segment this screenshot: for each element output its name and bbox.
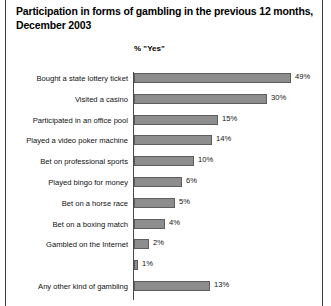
bar-value-label: 10%	[198, 155, 213, 164]
chart-title: Participation in forms of gambling in th…	[16, 5, 316, 32]
bar-row: Any other kind of gambling13%	[0, 278, 331, 299]
bar-category-label: Participated in an office pool	[8, 116, 128, 125]
bar	[134, 177, 182, 187]
bar	[134, 135, 212, 145]
bar	[134, 115, 218, 125]
bar-category-label: Played a video poker machine	[8, 136, 128, 145]
bar-value-label: 30%	[271, 93, 286, 102]
bar	[134, 73, 291, 83]
bar-value-label: 14%	[216, 134, 231, 143]
bar-row: Played a video poker machine14%	[0, 132, 331, 153]
bar	[134, 260, 138, 270]
bar-category-label: Visited a casino	[8, 95, 128, 104]
bar-value-label: 13%	[214, 280, 229, 289]
bar-value-label: 4%	[169, 218, 180, 227]
bar-value-label: 1%	[142, 259, 153, 268]
bar	[134, 281, 210, 291]
bar	[134, 198, 175, 208]
bar-row: Bet on a boxing match4%	[0, 216, 331, 237]
plot-area: Bought a state lottery ticket49%Visited …	[0, 70, 331, 302]
bar-row: Gambled on the Internet2%	[0, 236, 331, 257]
bar-row: Visited a casino30%	[0, 91, 331, 112]
bar-category-label: Played bingo for money	[8, 178, 128, 187]
bar-row: Bet on a horse race5%	[0, 195, 331, 216]
bar-category-label: Bought a state lottery ticket	[8, 74, 128, 83]
bar-category-label: Bet on a boxing match	[8, 220, 128, 229]
bar-value-label: 6%	[186, 176, 197, 185]
bar-value-label: 2%	[153, 238, 164, 247]
bar-row: Participated in an office pool15%	[0, 112, 331, 133]
bar	[134, 219, 165, 229]
bar-category-label: Gambled on the Internet	[8, 240, 128, 249]
bar-row: Played bingo for money6%	[0, 174, 331, 195]
bar-category-label: Any other kind of gambling	[8, 282, 128, 291]
bar-category-label: Bet on a horse race	[8, 199, 128, 208]
chart-subtitle: % "Yes"	[134, 44, 254, 53]
bar	[134, 239, 149, 249]
bar-value-label: 49%	[295, 72, 310, 81]
bar-value-label: 5%	[179, 197, 190, 206]
bar	[134, 156, 194, 166]
bar-row: Bought a state lottery ticket49%	[0, 70, 331, 91]
bar-row: Bet on professional sports10%	[0, 153, 331, 174]
bar-chart-figure: Participation in forms of gambling in th…	[0, 0, 331, 306]
bar	[134, 94, 267, 104]
bar-category-label: Bet on professional sports	[8, 157, 128, 166]
bar-row: 1%	[0, 257, 331, 278]
bar-value-label: 15%	[222, 114, 237, 123]
